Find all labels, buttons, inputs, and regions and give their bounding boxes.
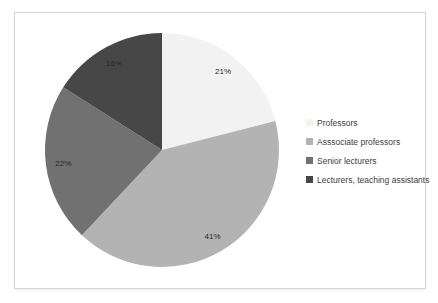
- chart-canvas: 21%41%22%16% Professors Asssociate profe…: [0, 0, 438, 303]
- legend-swatch-icon: [306, 157, 313, 164]
- pie-slice-label-3: 16%: [106, 59, 122, 68]
- legend-swatch-icon: [306, 138, 313, 145]
- legend-swatch-icon: [306, 119, 313, 126]
- legend: Professors Asssociate professors Senior …: [306, 113, 429, 189]
- legend-label: Asssociate professors: [317, 137, 400, 147]
- legend-item-senior-lecturers[interactable]: Senior lecturers: [306, 151, 429, 170]
- legend-item-associate-professors[interactable]: Asssociate professors: [306, 132, 429, 151]
- pie-slice-label-0: 21%: [215, 67, 231, 76]
- legend-swatch-icon: [306, 176, 313, 183]
- pie-slice-label-2: 22%: [55, 159, 71, 168]
- legend-label: Professors: [317, 118, 358, 128]
- legend-label: Senior lecturers: [317, 156, 377, 166]
- legend-item-professors[interactable]: Professors: [306, 113, 429, 132]
- legend-item-lecturers-teaching-assistants[interactable]: Lecturers, teaching assistants: [306, 170, 429, 189]
- pie-slice-label-1: 41%: [205, 232, 221, 241]
- legend-label: Lecturers, teaching assistants: [317, 175, 429, 185]
